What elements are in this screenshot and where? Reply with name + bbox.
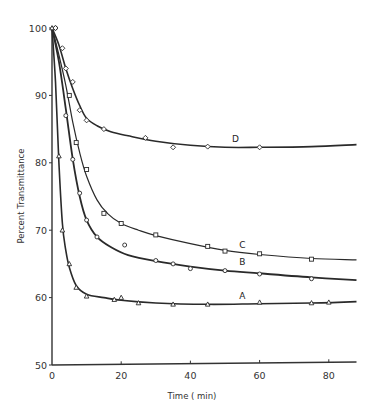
x-tick-label: 40 bbox=[184, 370, 196, 381]
data-point-b bbox=[78, 191, 82, 195]
data-point-a bbox=[309, 301, 314, 305]
data-point-d bbox=[84, 118, 89, 123]
data-point-c bbox=[206, 244, 210, 248]
curve-d bbox=[52, 28, 357, 147]
data-markers bbox=[50, 26, 331, 307]
curve-b bbox=[52, 28, 357, 280]
data-point-a bbox=[57, 154, 62, 158]
y-tick-label: 90 bbox=[35, 90, 47, 101]
data-point-a bbox=[74, 285, 79, 289]
data-point-c bbox=[85, 168, 89, 172]
data-point-c bbox=[258, 252, 262, 256]
y-tick-label: 50 bbox=[35, 360, 47, 371]
curve-label-c: C bbox=[239, 240, 245, 250]
axes: 5060708090100020406080 bbox=[29, 23, 357, 382]
data-point-b bbox=[71, 157, 75, 161]
data-point-a bbox=[119, 295, 124, 299]
data-point-b bbox=[223, 269, 227, 273]
curve-label-d: D bbox=[232, 134, 239, 144]
data-point-b bbox=[258, 272, 262, 276]
data-point-d bbox=[257, 145, 262, 150]
data-point-b bbox=[85, 218, 89, 222]
data-point-b bbox=[123, 243, 127, 247]
data-point-a bbox=[60, 228, 65, 232]
data-point-b bbox=[310, 277, 314, 281]
data-point-c bbox=[102, 211, 106, 215]
x-tick-label: 0 bbox=[49, 370, 55, 381]
data-point-b bbox=[64, 114, 68, 118]
data-point-d bbox=[171, 145, 176, 150]
y-axis-title: Percent Transmittance bbox=[16, 149, 26, 244]
curve-c bbox=[52, 28, 357, 260]
data-point-c bbox=[74, 141, 78, 145]
x-tick-label: 20 bbox=[115, 370, 127, 381]
y-tick-label: 80 bbox=[35, 157, 47, 168]
curve-label-b: B bbox=[239, 257, 245, 267]
curve-label-a: A bbox=[239, 291, 246, 301]
data-point-b bbox=[95, 235, 99, 239]
x-axis-title: Time ( min) bbox=[167, 391, 217, 401]
data-point-a bbox=[327, 300, 332, 304]
data-point-c bbox=[119, 221, 123, 225]
data-point-a bbox=[112, 297, 117, 301]
data-point-a bbox=[205, 302, 210, 306]
data-point-d bbox=[205, 144, 210, 149]
data-point-a bbox=[171, 302, 176, 306]
data-point-b bbox=[188, 267, 192, 271]
y-tick-label: 70 bbox=[35, 225, 47, 236]
curve-labels: ABCD bbox=[232, 134, 246, 301]
data-point-d bbox=[101, 127, 106, 132]
x-axis-line bbox=[52, 362, 356, 365]
data-point-b bbox=[171, 262, 175, 266]
curve-a bbox=[52, 28, 357, 304]
data-point-c bbox=[310, 257, 314, 261]
chart: 5060708090100020406080 ABCD Time ( min) … bbox=[0, 0, 378, 419]
data-point-c bbox=[154, 233, 158, 237]
curves bbox=[52, 28, 357, 304]
data-point-a bbox=[257, 300, 262, 304]
data-point-d bbox=[63, 66, 68, 71]
y-tick-label: 100 bbox=[29, 23, 47, 34]
data-point-c bbox=[67, 93, 71, 97]
y-tick-label: 60 bbox=[35, 292, 47, 303]
x-tick-label: 60 bbox=[254, 370, 266, 381]
data-point-c bbox=[223, 249, 227, 253]
data-point-b bbox=[154, 259, 158, 263]
x-tick-label: 80 bbox=[323, 370, 335, 381]
